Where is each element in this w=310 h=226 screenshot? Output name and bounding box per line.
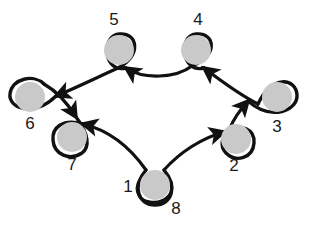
node-label-8: 8 <box>171 199 180 218</box>
node-label-1: 1 <box>123 177 132 196</box>
node-circle-7[interactable] <box>57 122 87 152</box>
node-label-5: 5 <box>109 10 118 29</box>
node-circle-2[interactable] <box>221 124 251 154</box>
node-circle-5[interactable] <box>104 35 134 65</box>
node-label-6: 6 <box>25 114 34 133</box>
graph-svg: 5 4 6 3 7 2 1 8 <box>0 0 310 226</box>
node-label-3: 3 <box>272 117 281 136</box>
node-circle-4[interactable] <box>181 35 211 65</box>
node-label-7: 7 <box>67 155 76 174</box>
node-circle-8[interactable] <box>140 170 170 200</box>
node-circle-6[interactable] <box>15 82 45 112</box>
diagram-canvas: 5 4 6 3 7 2 1 8 <box>0 0 310 226</box>
node-circle-3[interactable] <box>262 82 292 112</box>
node-label-2: 2 <box>229 156 238 175</box>
node-label-4: 4 <box>193 10 202 29</box>
